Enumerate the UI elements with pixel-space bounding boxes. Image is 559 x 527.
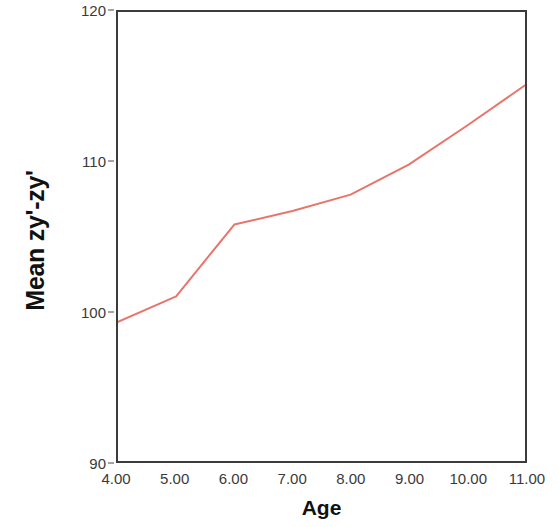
x-tick-label: 6.00 [219, 470, 248, 487]
x-tick-label: 10.00 [450, 470, 488, 487]
y-tick-mark [108, 463, 114, 464]
line-chart: Mean zy'-zy' 12011010090 4.005.006.007.0… [0, 0, 559, 527]
plot-svg [118, 12, 525, 461]
y-axis-tick-labels: 12011010090 [62, 0, 116, 480]
y-tick-mark [108, 312, 114, 313]
x-tick-label: 8.00 [336, 470, 365, 487]
x-tick-label: 4.00 [101, 470, 130, 487]
y-tick-label: 100 [81, 304, 106, 321]
x-tick-label: 7.00 [278, 470, 307, 487]
y-tick-mark [108, 161, 114, 162]
y-axis-title-label: Mean zy'-zy' [21, 170, 50, 310]
y-tick-mark [108, 10, 114, 11]
data-series-line [118, 85, 525, 321]
y-tick-label: 110 [82, 153, 106, 170]
y-tick-label: 90 [89, 455, 106, 472]
y-tick-label: 120 [81, 2, 106, 19]
y-axis-title: Mean zy'-zy' [0, 0, 70, 480]
x-axis-tick-labels: 4.005.006.007.008.009.0010.0011.00 [116, 468, 527, 494]
x-tick-label: 11.00 [509, 470, 545, 487]
x-axis-title: Age [116, 496, 527, 520]
x-tick-label: 9.00 [395, 470, 424, 487]
x-tick-label: 5.00 [160, 470, 189, 487]
plot-area [116, 10, 527, 463]
